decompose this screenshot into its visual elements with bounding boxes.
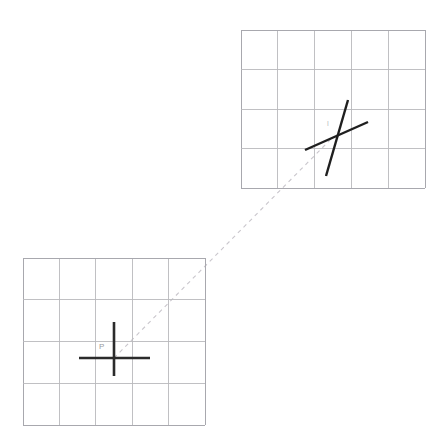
correspondence-dashed-line [114, 137, 333, 358]
diagram-canvas: Pl [0, 0, 445, 444]
figure-root: Pl [0, 0, 445, 444]
marker-layer: Pl [79, 100, 368, 376]
source-cross-marker: P [79, 322, 150, 376]
upper-right-grid [241, 30, 425, 188]
correspondence-layer [114, 137, 333, 358]
point-label: P [99, 342, 104, 351]
point-label: l [327, 119, 329, 128]
